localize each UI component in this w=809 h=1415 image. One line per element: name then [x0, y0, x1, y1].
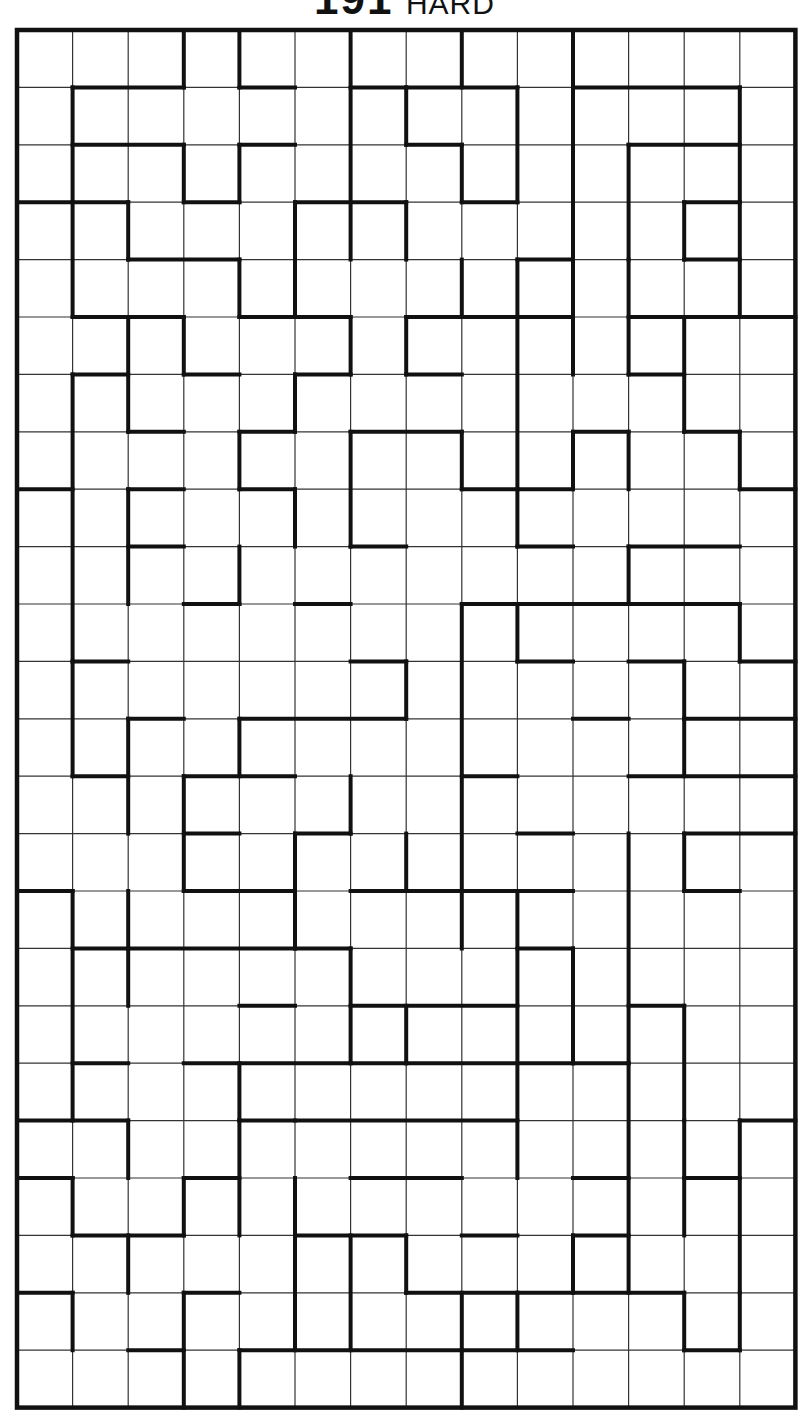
- puzzle-grid[interactable]: [0, 0, 809, 1415]
